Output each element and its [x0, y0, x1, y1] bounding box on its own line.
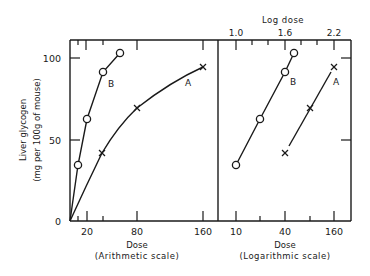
- series-a-label-right: A: [333, 77, 340, 87]
- right-x-sublabel: (Logarithmic scale): [239, 251, 330, 261]
- left-x-ticks: [78, 40, 203, 221]
- top-tick-1-0: 1.0: [229, 28, 244, 38]
- series-b-label-right: B: [290, 77, 296, 87]
- y-tick-0: 0: [55, 216, 61, 227]
- top-tick-1-6: 1.6: [278, 28, 293, 38]
- left-x-sublabel: (Arithmetic scale): [95, 251, 180, 261]
- y-ticks: [70, 58, 351, 140]
- dose-response-figure: 0 50 100 Liver glycogen (mg per 100g of …: [0, 0, 370, 276]
- y-tick-50: 50: [49, 135, 61, 146]
- y-axis-label: Liver glycogen: [18, 99, 28, 161]
- series-b-label-left: B: [108, 79, 114, 89]
- chart-canvas: 0 50 100 Liver glycogen (mg per 100g of …: [0, 0, 370, 276]
- left-x-label: Dose: [126, 240, 147, 250]
- series-a-label-left: A: [185, 78, 192, 88]
- right-x-tick-40: 40: [279, 226, 291, 237]
- left-x-tick-20: 20: [81, 226, 93, 237]
- y-axis-sublabel: (mg per 100g of mouse): [32, 78, 42, 182]
- right-x-tick-10: 10: [230, 226, 242, 237]
- right-x-tick-160: 160: [325, 226, 343, 237]
- right-x-ticks: [236, 40, 334, 221]
- left-x-tick-160: 160: [194, 226, 212, 237]
- top-tick-2-2: 2.2: [327, 28, 341, 38]
- y-tick-100: 100: [43, 53, 61, 64]
- top-axis-label: Log dose: [262, 15, 304, 25]
- series-b-arithmetic: [70, 49, 124, 221]
- axes-frame: [70, 40, 351, 221]
- left-x-tick-80: 80: [131, 226, 143, 237]
- right-x-label: Dose: [274, 240, 295, 250]
